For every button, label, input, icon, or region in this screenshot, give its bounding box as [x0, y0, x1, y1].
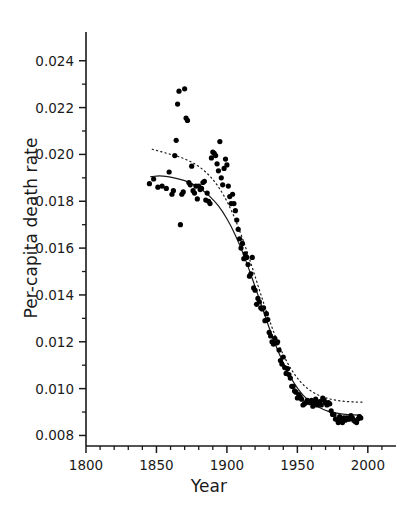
data-point: [275, 339, 280, 344]
data-point: [299, 397, 304, 402]
data-point: [223, 157, 228, 162]
x-axis-title: Year: [0, 476, 418, 496]
data-point: [147, 181, 152, 186]
y-axis-tick-label: 0.008: [35, 427, 74, 443]
data-point: [244, 255, 249, 260]
data-point: [331, 412, 336, 417]
data-point: [358, 415, 363, 420]
fitted-curve-solid: [151, 176, 361, 415]
data-point: [265, 317, 270, 322]
data-point: [181, 189, 186, 194]
fitted-curve-dotted: [152, 149, 362, 402]
data-point: [285, 366, 290, 371]
data-point: [236, 227, 241, 232]
x-axis-tick-label: 2000: [351, 457, 385, 473]
data-point: [175, 101, 180, 106]
data-point: [217, 139, 222, 144]
chart-canvas: 0.0080.0100.0120.0140.0160.0180.0200.022…: [0, 0, 418, 518]
data-point: [233, 208, 238, 213]
y-axis-title: Per-capita death rate: [21, 88, 51, 368]
data-point: [248, 271, 253, 276]
data-point: [252, 288, 257, 293]
data-point: [199, 186, 204, 191]
data-point: [234, 217, 239, 222]
data-point: [164, 186, 169, 191]
data-point: [182, 86, 187, 91]
data-point: [224, 162, 229, 167]
data-point: [178, 222, 183, 227]
data-point: [261, 305, 266, 310]
data-point: [174, 138, 179, 143]
data-point: [189, 164, 194, 169]
data-point: [192, 190, 197, 195]
data-point: [176, 89, 181, 94]
data-point: [195, 196, 200, 201]
data-point: [220, 182, 225, 187]
data-point: [281, 354, 286, 359]
data-point: [219, 175, 224, 180]
figure: 0.0080.0100.0120.0140.0160.0180.0200.022…: [0, 0, 418, 518]
data-point: [257, 299, 262, 304]
x-axis-tick-label: 1950: [280, 457, 314, 473]
y-axis-tick-label: 0.024: [35, 53, 74, 69]
data-point: [151, 176, 156, 181]
data-point: [250, 255, 255, 260]
data-point: [291, 384, 296, 389]
data-point: [188, 182, 193, 187]
data-point: [245, 262, 250, 267]
x-axis-tick-label: 1800: [69, 457, 103, 473]
data-point: [238, 246, 243, 251]
data-point: [207, 201, 212, 206]
data-point: [214, 161, 219, 166]
data-point: [205, 190, 210, 195]
data-point: [202, 179, 207, 184]
data-point: [213, 153, 218, 158]
data-point: [240, 241, 245, 246]
data-point: [185, 118, 190, 123]
data-point: [231, 201, 236, 206]
y-axis-tick-label: 0.010: [35, 381, 74, 397]
data-point: [172, 153, 177, 158]
data-point: [327, 401, 332, 406]
data-point: [226, 183, 231, 188]
data-point: [167, 169, 172, 174]
data-point: [276, 347, 281, 352]
x-axis-tick-label: 1900: [210, 457, 244, 473]
data-point: [230, 192, 235, 197]
data-point: [216, 168, 221, 173]
data-point: [237, 236, 242, 241]
data-point: [264, 311, 269, 316]
x-axis-tick-label: 1850: [139, 457, 173, 473]
data-point: [288, 375, 293, 380]
data-point: [171, 188, 176, 193]
